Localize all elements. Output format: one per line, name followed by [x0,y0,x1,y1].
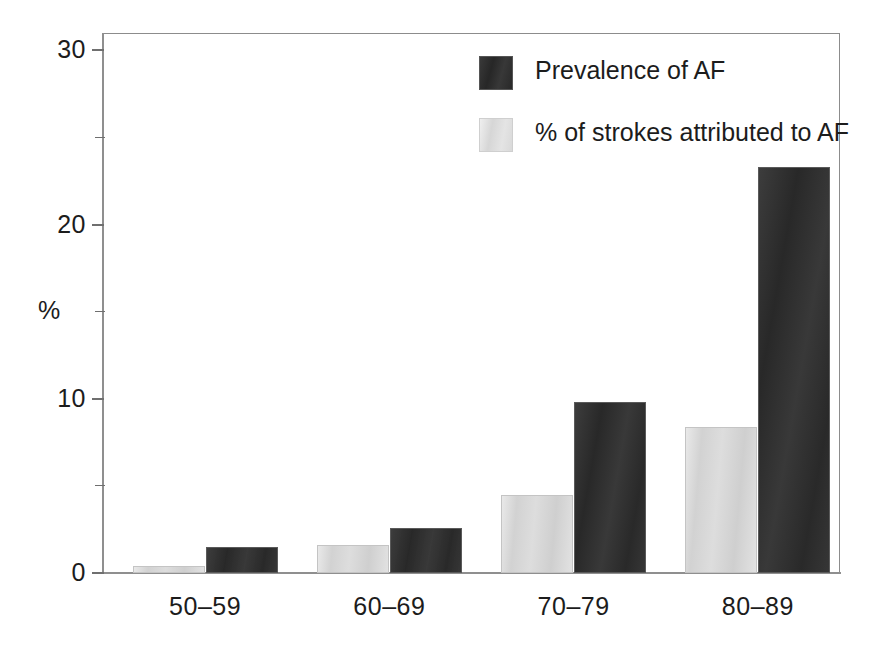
x-tick-label-50–59: 50–59 [125,592,285,620]
dark-swatch-icon [479,56,513,90]
bar-prevalence-80–89 [758,167,830,573]
bar-prevalence-60–69 [390,528,462,573]
x-tick-label-80–89: 80–89 [678,592,838,620]
legend-label-prevalence: Prevalence of AF [535,54,725,86]
x-tick-label-60–69: 60–69 [309,592,469,620]
bar-prevalence-50–59 [206,547,278,573]
bar-prevalence-70–79 [574,402,646,573]
bar-strokes-70–79 [501,495,573,573]
bar-strokes-50–59 [133,566,205,573]
legend-item-prevalence: Prevalence of AF [479,54,839,116]
bar-strokes-80–89 [685,427,757,573]
bar-strokes-60–69 [317,545,389,573]
legend-item-strokes: % of strokes attributed to AF [479,116,839,178]
x-tick-label-70–79: 70–79 [494,592,654,620]
light-swatch-icon [479,118,513,152]
bar-chart-figure: 0102030 % 50–5960–6970–7980–89 Prevalenc… [0,0,884,651]
legend-label-strokes: % of strokes attributed to AF [535,116,849,148]
chart-legend: Prevalence of AF % of strokes attributed… [479,54,839,178]
